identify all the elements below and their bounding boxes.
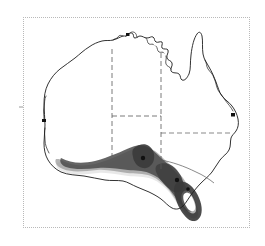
city-marker-adelaide [141, 156, 145, 160]
city-marker-hobart [186, 187, 190, 191]
australia-distribution-map [0, 0, 265, 246]
city-marker-melbourne [175, 178, 179, 182]
figure-root [0, 0, 265, 246]
australia-coastline [44, 32, 238, 209]
city-marker-darwin [126, 33, 130, 36]
city-marker-brisbane [231, 113, 235, 117]
city-marker-perth [42, 119, 46, 122]
